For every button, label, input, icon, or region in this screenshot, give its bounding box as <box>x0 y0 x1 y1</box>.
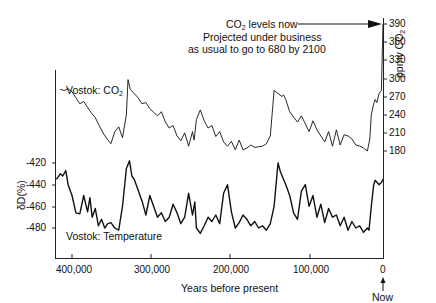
x-tick-label: 100,000 <box>293 264 329 275</box>
x-tick-label: 300,000 <box>134 264 170 275</box>
left-tick-marks <box>52 163 55 228</box>
now-arrow <box>381 277 386 291</box>
co2-now-arrow <box>298 20 382 28</box>
right-tick-label: 270 <box>389 91 406 102</box>
left-axis-title: δD(%) <box>15 180 27 210</box>
x-tick-label: 200,000 <box>213 264 249 275</box>
right-tick-label: 390 <box>389 18 406 29</box>
co2-series-label: Vostok: CO2 <box>66 84 123 96</box>
left-tick-label: -460 <box>26 201 46 212</box>
right-tick-label: 240 <box>389 109 406 120</box>
left-tick-label: -420 <box>26 157 46 168</box>
projection-annotation-line3: as usual to go to 680 by 2100 <box>188 43 326 55</box>
x-axis-title: Years before present <box>181 282 278 294</box>
right-axis-title: ppmv CO2 <box>393 30 405 78</box>
x-tick-marks <box>72 254 310 258</box>
left-tick-label: -440 <box>26 179 46 190</box>
now-label: Now <box>372 291 393 303</box>
temperature-series-label: Vostok: Temperature <box>66 230 162 242</box>
x-tick-label: 0 <box>380 264 386 275</box>
co2-now-annotation: CO2 levels now <box>226 18 298 30</box>
temperature-series-line <box>56 161 383 234</box>
projection-annotation-line2: Projected under business <box>203 31 322 43</box>
x-tick-label: 400,000 <box>56 264 92 275</box>
right-tick-label: 210 <box>389 127 406 138</box>
right-tick-label: 180 <box>389 145 406 156</box>
left-tick-label: -480 <box>26 222 46 233</box>
